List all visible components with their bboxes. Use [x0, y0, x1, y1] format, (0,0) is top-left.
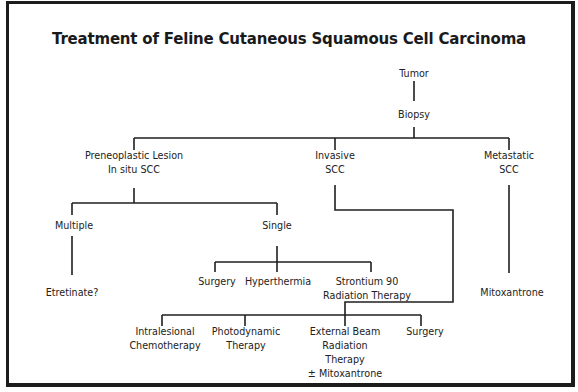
node-single: Single: [262, 219, 292, 233]
node-preneoplastic: Preneoplastic Lesion In situ SCC: [85, 149, 183, 177]
node-surgery-invasive: Surgery: [406, 325, 444, 339]
node-multiple: Multiple: [55, 219, 93, 233]
node-invasive: Invasive SCC: [315, 149, 355, 177]
node-photodynamic: Photodynamic Therapy: [212, 325, 280, 353]
node-etretinate: Etretinate?: [46, 286, 99, 300]
node-strontium: Strontium 90 Radiation Therapy: [323, 275, 411, 303]
node-external-beam: External Beam Radiation Therapy ± Mitoxa…: [308, 325, 382, 381]
node-hyperthermia: Hyperthermia: [245, 275, 311, 289]
node-tumor: Tumor: [399, 67, 429, 81]
node-surgery-single: Surgery: [198, 275, 236, 289]
node-intralesional: Intralesional Chemotherapy: [129, 325, 200, 353]
node-metastatic: Metastatic SCC: [484, 149, 534, 177]
node-biopsy: Biopsy: [398, 108, 430, 122]
connector-lines: [0, 0, 578, 392]
node-mitoxantrone: Mitoxantrone: [480, 286, 543, 300]
